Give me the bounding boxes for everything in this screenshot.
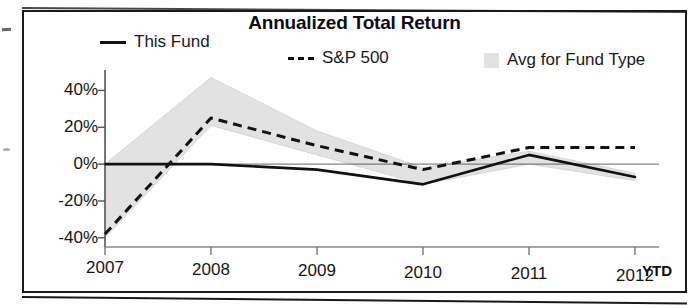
x-axis-tick-label: 2012 xyxy=(616,267,654,284)
chart-border-bottom-skew xyxy=(22,296,687,304)
annualized-total-return-chart: Annualized Total Return This Fund S&P 50… xyxy=(22,10,687,293)
scan-artifact-top xyxy=(2,28,11,32)
x-axis-tick-label: 2007 xyxy=(86,259,124,276)
x-axis-tick-label: 2008 xyxy=(192,261,230,278)
x-axis-tick-label: 2009 xyxy=(298,262,336,279)
scan-artifact-middle xyxy=(3,148,10,151)
x-axis-tick-label: 2010 xyxy=(404,264,442,281)
x-axis-tick-label: 2011 xyxy=(511,265,548,282)
x-axis-labels: YTD 200720082009201020112012 xyxy=(22,10,687,293)
